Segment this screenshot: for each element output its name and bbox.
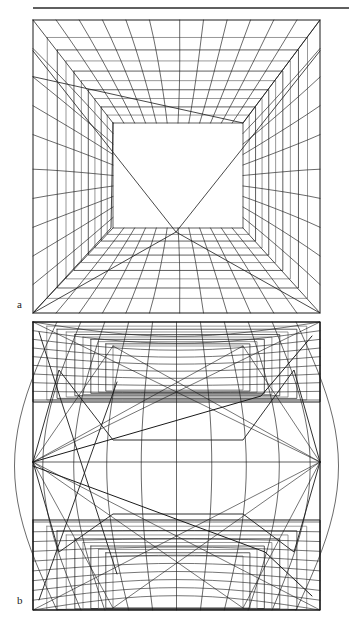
grid-line	[211, 20, 251, 123]
grid-line	[232, 20, 297, 123]
grid-line	[221, 20, 273, 123]
grid-line	[33, 51, 320, 313]
grid-line	[189, 20, 204, 123]
grid-line	[243, 106, 320, 155]
grid-line	[98, 549, 257, 608]
grid-line	[74, 71, 283, 270]
grid-line	[149, 20, 167, 123]
figure-root: a b	[0, 0, 349, 619]
grid-line	[200, 322, 211, 610]
grid-line	[243, 197, 320, 228]
grid-line	[243, 186, 320, 198]
grid-line	[33, 346, 113, 462]
grid-line	[33, 20, 320, 123]
grid-line	[200, 20, 227, 123]
grid-line	[296, 322, 338, 610]
grid-line	[243, 77, 320, 144]
grid-line	[83, 337, 272, 395]
grid-line	[272, 322, 310, 610]
grid-line	[113, 556, 243, 608]
grid-line	[95, 98, 262, 247]
perspective-figure-svg	[0, 0, 349, 619]
panel-label-a: a	[17, 299, 22, 310]
grid-line	[243, 207, 320, 256]
grid-line	[33, 51, 320, 313]
grid-line	[107, 322, 129, 610]
grid-line	[106, 344, 250, 391]
grid-line	[243, 218, 320, 285]
grid-line	[79, 20, 134, 123]
grid-line	[113, 346, 243, 390]
grid-line	[178, 20, 180, 123]
panel-a-grid	[33, 20, 320, 313]
grid-line	[243, 169, 320, 175]
grid-line	[243, 135, 320, 165]
grid-line	[113, 123, 243, 228]
grid-line	[107, 115, 249, 234]
panel-b-grid	[15, 322, 339, 610]
grid-line	[101, 107, 255, 241]
grid-line	[66, 61, 290, 279]
grid-line	[243, 346, 320, 462]
grid-line	[126, 20, 156, 123]
grid-line	[33, 20, 113, 123]
panel-label-b: b	[17, 595, 23, 606]
grid-line	[102, 20, 145, 123]
grid-line	[33, 20, 320, 313]
